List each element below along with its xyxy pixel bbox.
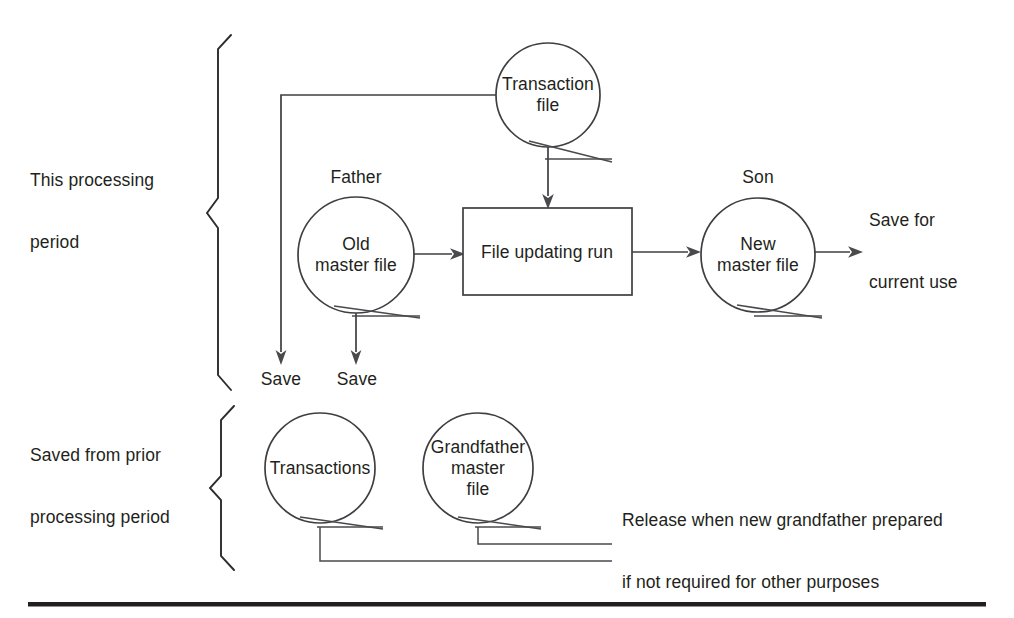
annotation-release-note: Release when new grandfather prepared if… (622, 469, 1002, 618)
section-label-line-1: Saved from prior (30, 446, 220, 467)
annotation-save-for-current-use: Save for current use (869, 169, 1009, 334)
section-label-this-processing-period: This processing period (30, 129, 210, 294)
connector-old-master-to-save (351, 313, 362, 365)
section-label-line-1: This processing (30, 171, 210, 192)
annotation-line-1: Release when new grandfather prepared (622, 511, 1002, 532)
annotation-line-2: if not required for other purposes (622, 573, 1002, 594)
annotation-line-1: Save for (869, 211, 1009, 232)
node-label-line-1: Old master file (291, 234, 421, 275)
node-label-old-master-file: Old master file (291, 193, 421, 317)
annotation-line-2: current use (869, 273, 1009, 294)
generation-tag-son: Son (742, 167, 773, 188)
connector-run-to-new-master (632, 246, 701, 258)
connector-old-master-to-run (414, 248, 465, 260)
node-label-grandfather-master-file: Grandfather master file (413, 396, 543, 540)
node-label-line-1: Transaction file (488, 74, 608, 115)
section-label-line-2: period (30, 233, 210, 254)
diagram-root: This processing period Saved from prior … (0, 0, 1014, 618)
brace-this-processing-period (207, 35, 231, 390)
annotation-save-transaction: Save (261, 369, 301, 390)
node-label-file-updating-run: File updating run (465, 242, 630, 263)
node-label-line-1: New master file (693, 234, 823, 275)
node-label-new-master-file: New master file (693, 193, 823, 317)
node-label-line-1: Grandfather master file (413, 437, 543, 499)
section-label-line-2: processing period (30, 508, 220, 529)
annotation-save-old-master: Save (337, 369, 377, 390)
section-label-saved-from-prior-period: Saved from prior processing period (30, 404, 220, 569)
node-label-transactions-prior: Transactions (255, 458, 385, 479)
generation-tag-father: Father (330, 167, 381, 188)
node-label-transaction-file: Transaction file (488, 33, 608, 157)
